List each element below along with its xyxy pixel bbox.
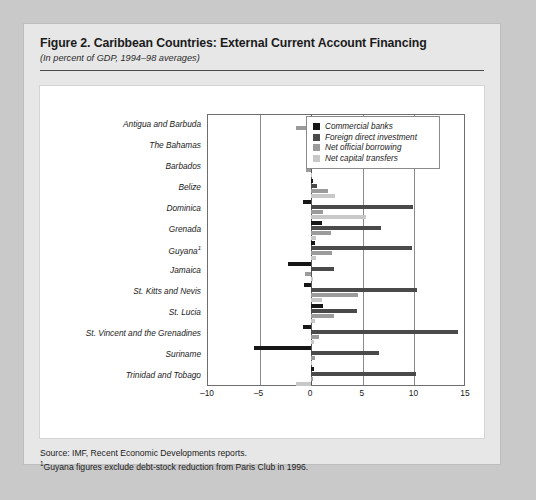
legend-item: Foreign direct investment [313,133,434,142]
bar [311,184,317,188]
bar [311,293,357,297]
category-label: Barbados [40,161,207,171]
source-note: Source: IMF, Recent Economic Development… [40,448,484,458]
bar [311,241,315,245]
category-label: Trinidad and Tobago [40,370,207,380]
category-label: St. Vincent and the Grenadines [40,328,207,338]
bar [311,173,312,177]
bar-group [208,220,464,241]
bar [254,346,311,350]
bar [311,319,315,323]
bar [311,288,417,292]
bar [311,246,412,250]
bar [311,356,315,360]
category-label: St. Kitts and Nevis [40,286,207,296]
category-label: Dominica [40,203,207,213]
bar [304,283,311,287]
bar [311,231,331,235]
footnote-text: Guyana figures exclude debt-stock reduct… [44,462,309,472]
figure-subtitle: (In percent of GDP, 1994–98 averages) [40,53,484,63]
bar [311,340,314,344]
x-tick-label: 0 [308,388,313,398]
bar [311,267,334,271]
bar [311,304,322,308]
legend-swatch-icon [313,144,320,151]
header-divider [40,70,484,71]
bar [311,226,381,230]
bar [311,361,312,365]
x-tick-label: 10 [409,388,418,398]
category-label: Antigua and Barbuda [40,119,207,129]
x-tick-label: 5 [359,388,364,398]
bar [311,330,458,334]
bar-group [208,199,464,220]
legend-label: Foreign direct investment [325,133,417,142]
bar [311,251,332,255]
bar [311,298,321,302]
legend-label: Commercial banks [325,122,393,131]
bar-group [208,345,464,366]
legend-swatch-icon [313,134,320,141]
bar [305,272,311,276]
legend-swatch-icon [313,123,320,130]
legend-item: Net capital transfers [313,154,434,163]
bar [311,205,413,209]
bar [303,200,311,204]
bar [311,367,314,371]
chart-legend: Commercial banksForeign direct investmen… [306,116,440,169]
legend-label: Net official borrowing [325,143,401,152]
x-tick-label: –5 [254,388,263,398]
legend-swatch-icon [313,155,320,162]
bar [311,314,334,318]
figure-title: Figure 2. Caribbean Countries: External … [40,36,484,50]
value-axis-labels: –10–5051015 [207,388,465,404]
footnote-1: 1Guyana figures exclude debt-stock reduc… [40,460,484,472]
legend-label: Net capital transfers [325,154,398,163]
bar-group [208,366,464,387]
bar [311,236,316,240]
figure-header: Figure 2. Caribbean Countries: External … [24,24,500,63]
bar-group [208,303,464,324]
legend-item: Commercial banks [313,122,434,131]
category-label: Suriname [40,349,207,359]
bar [311,256,316,260]
bar [296,382,311,386]
legend-item: Net official borrowing [313,143,434,152]
bar [303,325,311,329]
category-label: Guyana1 [40,245,207,256]
bar [311,372,416,376]
category-label: Belize [40,182,207,192]
figure-card: Figure 2. Caribbean Countries: External … [24,24,500,464]
bar [311,215,366,219]
bar [311,189,328,193]
bar [311,335,319,339]
category-label: The Bahamas [40,140,207,150]
bar [311,377,313,381]
figure-notes: Source: IMF, Recent Economic Development… [40,448,484,474]
chart-area: Antigua and BarbudaThe BahamasBarbadosBe… [40,86,484,438]
bar-group [208,178,464,199]
bar-group [208,282,464,303]
bar [311,351,379,355]
bar [288,262,311,266]
category-label: Grenada [40,224,207,234]
category-footnote-marker: 1 [198,245,201,251]
category-label: St. Lucia [40,307,207,317]
x-tick-label: 15 [460,388,469,398]
bar [311,277,313,281]
bar [311,210,322,214]
bar-group [208,324,464,345]
category-label: Jamaica [40,265,207,275]
bar [311,194,335,198]
bar [311,179,313,183]
bar [311,309,356,313]
x-tick-label: –10 [200,388,214,398]
bar [311,221,321,225]
bar-group [208,241,464,262]
bar-group [208,261,464,282]
chart-panel: Antigua and BarbudaThe BahamasBarbadosBe… [40,86,484,438]
